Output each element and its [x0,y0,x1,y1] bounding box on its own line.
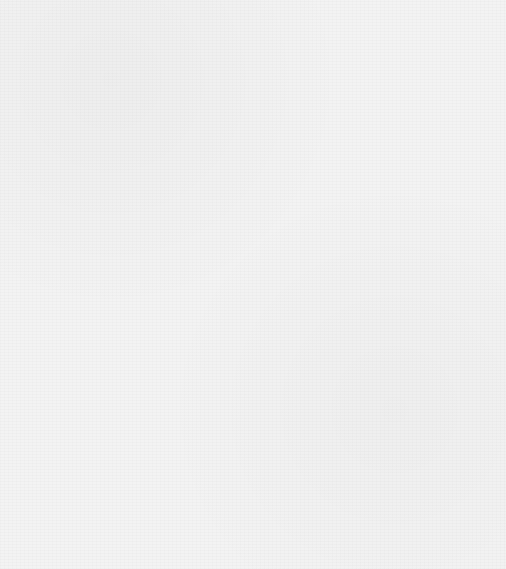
x-axis-label-dependence: Dependence [303,512,463,535]
panel-letter: (A) [26,24,54,46]
bar-abuse-3 [228,270,279,503]
y-axis-line [107,67,109,504]
y-tick-label-10: 10 [36,276,96,295]
bar-dependence-1 [316,370,364,503]
panel-title-text: Alcohol [63,24,129,46]
figure-bottom-rule [0,560,506,563]
y-tick-label-15: 15 [36,167,96,186]
bar-abuse-1 [126,135,177,503]
panel-title: (A)Alcohol [26,24,129,47]
x-axis-label-abuse: Abuse [117,512,277,535]
plot-area [109,68,465,503]
y-tick-label-5: 5 [36,385,96,404]
y-tick-label-20: 20 [36,58,96,77]
y-tick-label-0: 0 [36,493,96,512]
bar-dependence-2 [364,466,412,503]
bar-abuse-2 [177,394,228,503]
bar-dependence-3 [412,420,460,503]
x-axis-line [107,503,465,505]
figure-panel-a: (A)Alcohol Diagnosis (%) 20 15 10 5 0 Ab… [0,0,506,569]
